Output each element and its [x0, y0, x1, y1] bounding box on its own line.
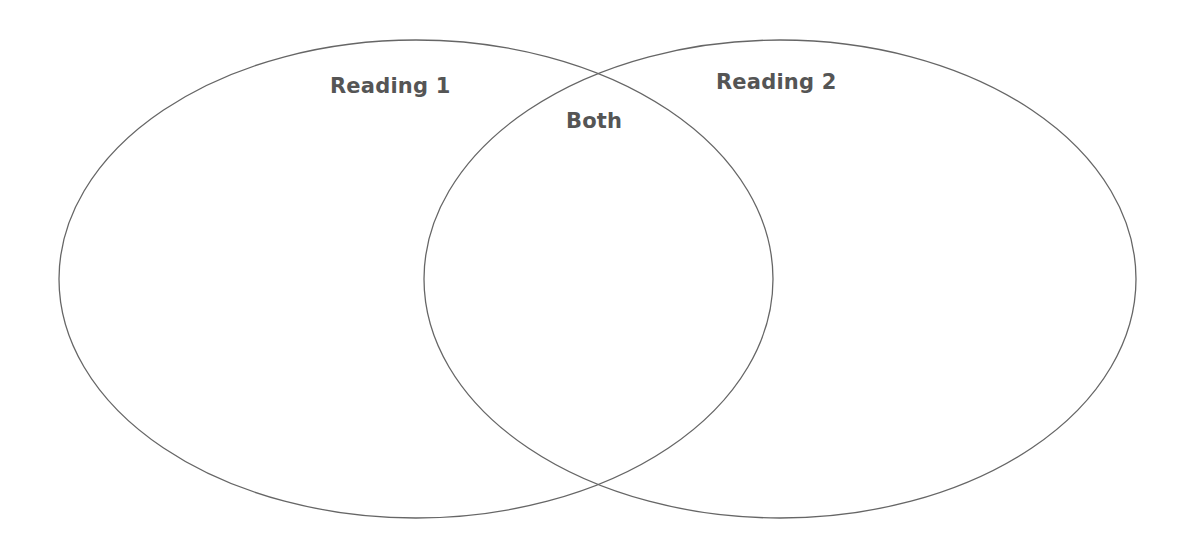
reading-2-ellipse [424, 40, 1136, 518]
reading-1-label: Reading 1 [330, 76, 451, 97]
reading-1-ellipse [59, 40, 773, 518]
venn-diagram [0, 0, 1189, 533]
intersection-label: Both [566, 111, 622, 132]
reading-2-label: Reading 2 [716, 72, 837, 93]
